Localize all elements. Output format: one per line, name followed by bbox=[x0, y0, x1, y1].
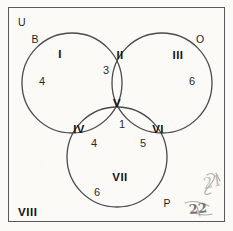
region-count-vii: 6 bbox=[94, 187, 100, 198]
universe-label: U bbox=[18, 17, 26, 28]
region-label-v: V bbox=[113, 98, 121, 110]
set-label-p: P bbox=[163, 198, 170, 209]
region-label-ii: II bbox=[116, 50, 123, 62]
region-count-v: 1 bbox=[119, 119, 125, 130]
region-label-vi: VI bbox=[152, 124, 164, 136]
region-label-viii: VIII bbox=[18, 207, 38, 219]
circle-set-b bbox=[22, 33, 122, 133]
venn-diagram-figure: U B O P I 4 II 3 III 6 IV 4 V 1 VI 5 VII… bbox=[0, 0, 233, 231]
region-count-ii: 3 bbox=[103, 65, 109, 76]
region-label-i: I bbox=[58, 49, 62, 61]
set-label-o: O bbox=[196, 34, 204, 45]
region-count-i: 4 bbox=[39, 76, 45, 87]
region-count-iii: 6 bbox=[189, 76, 195, 87]
region-label-vii: VII bbox=[112, 172, 127, 184]
region-label-iv: IV bbox=[73, 124, 85, 136]
set-label-b: B bbox=[31, 34, 38, 45]
region-label-iii: III bbox=[173, 50, 184, 62]
region-count-iv: 4 bbox=[91, 138, 97, 149]
circle-set-o bbox=[112, 33, 212, 133]
circle-set-p bbox=[67, 107, 167, 207]
region-count-vi: 5 bbox=[140, 138, 146, 149]
